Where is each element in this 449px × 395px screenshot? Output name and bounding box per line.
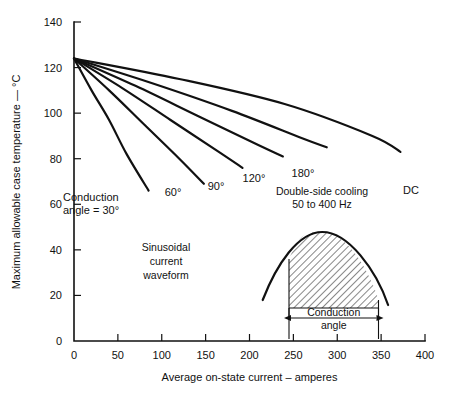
x-axis-title: Average on-state current – amperes bbox=[162, 371, 338, 383]
y-axis-title: Maximum allowable case temperature — °C bbox=[10, 75, 22, 290]
annotation-cooling-note: Double-side cooling50 to 400 Hz bbox=[276, 185, 368, 210]
y-tick-label: 40 bbox=[50, 244, 62, 256]
x-tick-label: 200 bbox=[240, 349, 258, 361]
y-tick-label: 60 bbox=[50, 198, 62, 210]
data-curves bbox=[74, 58, 400, 190]
curve-label-conduction-angle-30: Conductionangle = 30° bbox=[63, 191, 119, 216]
y-tick-label: 120 bbox=[44, 62, 62, 74]
curve-label-line: angle = 30° bbox=[63, 204, 119, 216]
x-tick-label: 150 bbox=[196, 349, 214, 361]
y-tick-label: 20 bbox=[50, 289, 62, 301]
y-tick-label: 100 bbox=[44, 107, 62, 119]
annotation-waveform-note: Sinusoidalcurrentwaveform bbox=[142, 241, 190, 281]
annotation-line: waveform bbox=[142, 269, 189, 281]
curve-label-line: Conduction bbox=[63, 191, 119, 203]
curve-label-60: 60° bbox=[165, 186, 182, 198]
x-tick-label: 300 bbox=[328, 349, 346, 361]
chart-figure: 020406080100120140 050100150200250300350… bbox=[0, 0, 449, 395]
inset-caption-line: angle bbox=[321, 319, 347, 331]
x-tick-label: 350 bbox=[372, 349, 390, 361]
y-axis-ticks: 020406080100120140 bbox=[44, 16, 81, 347]
x-tick-label: 400 bbox=[416, 349, 434, 361]
curve-label-90: 90° bbox=[208, 180, 225, 192]
y-tick-label: 0 bbox=[56, 335, 62, 347]
annotation-line: current bbox=[150, 255, 183, 267]
annotation-line: Sinusoidal bbox=[142, 241, 190, 253]
curve-60 bbox=[74, 58, 204, 183]
curve-label-180: 180° bbox=[292, 167, 315, 179]
x-tick-label: 100 bbox=[153, 349, 171, 361]
y-tick-label: 140 bbox=[44, 16, 62, 28]
chart-canvas: 020406080100120140 050100150200250300350… bbox=[0, 0, 449, 395]
annotation-line: Double-side cooling bbox=[276, 185, 368, 197]
x-axis-ticks: 050100150200250300350400 bbox=[71, 334, 434, 361]
inset-caption-line: Conduction bbox=[307, 306, 360, 318]
curve-180 bbox=[74, 58, 327, 147]
y-tick-label: 80 bbox=[50, 153, 62, 165]
x-tick-label: 250 bbox=[284, 349, 302, 361]
annotation-line: 50 to 400 Hz bbox=[292, 198, 352, 210]
x-tick-label: 50 bbox=[112, 349, 124, 361]
x-tick-label: 0 bbox=[71, 349, 77, 361]
conduction-area-hatch bbox=[289, 232, 379, 308]
curve-label-dc: DC bbox=[403, 184, 419, 196]
curve-120 bbox=[74, 58, 283, 156]
curve-label-120: 120° bbox=[243, 172, 266, 184]
chart-text-layer: Maximum allowable case temperature — °CA… bbox=[10, 75, 419, 383]
